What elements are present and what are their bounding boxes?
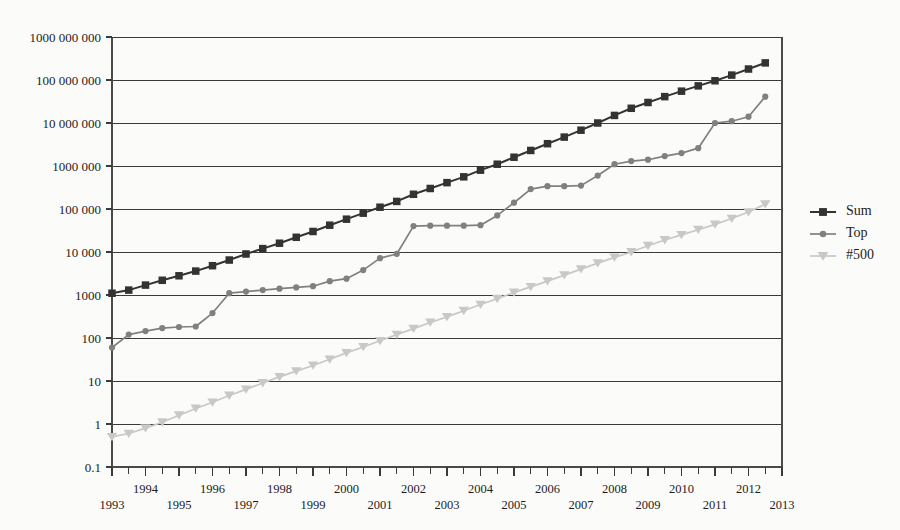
data-point-marker [159, 325, 165, 331]
data-point-marker [594, 119, 602, 127]
data-point-marker [762, 94, 768, 100]
x-tick-label: 2004 [468, 482, 494, 496]
data-point-marker [492, 295, 502, 303]
data-point-marker [745, 114, 751, 120]
data-point-marker [542, 277, 552, 285]
data-point-marker [327, 278, 333, 284]
data-point-marker [475, 301, 485, 309]
data-point-marker [510, 153, 518, 161]
x-tick-label: 2005 [502, 498, 527, 512]
data-point-marker [393, 198, 401, 206]
data-point-marker [258, 379, 268, 387]
data-point-marker [326, 221, 334, 229]
data-point-marker [224, 392, 234, 400]
legend-label: Sum [846, 203, 872, 218]
data-point-marker [628, 158, 634, 164]
legend-item-sum[interactable]: Sum [810, 203, 872, 218]
x-tick-label: 2006 [535, 482, 560, 496]
data-point-marker [108, 289, 116, 297]
data-point-marker [729, 118, 735, 124]
data-point-marker [461, 223, 467, 229]
data-point-marker [140, 424, 150, 432]
series-top [109, 94, 768, 351]
x-tick-label: 1993 [100, 498, 125, 512]
data-point-marker [527, 147, 535, 155]
data-point-marker [609, 253, 619, 261]
x-tick-label: 1996 [200, 482, 225, 496]
y-tick-label: 1000 000 000 [30, 30, 102, 45]
data-point-marker [274, 373, 284, 381]
legend-group: SumTop#500 [810, 203, 874, 262]
data-point-marker [611, 161, 617, 167]
data-point-marker [645, 157, 651, 163]
x-tick-label: 1999 [301, 498, 326, 512]
y-tick-label: 1000 000 [52, 159, 101, 174]
data-point-marker [241, 385, 251, 393]
data-point-marker [242, 250, 250, 258]
data-point-marker [494, 212, 500, 218]
x-tick-label: 2012 [736, 482, 761, 496]
data-point-marker [427, 223, 433, 229]
data-point-marker [743, 208, 753, 216]
data-point-marker [526, 283, 536, 291]
data-point-marker [343, 276, 349, 282]
data-point-marker [561, 133, 569, 141]
y-tick-labels-group: 1000 000 000100 000 00010 000 0001000 00… [30, 30, 102, 475]
series-group [107, 59, 771, 441]
data-point-marker [209, 310, 215, 316]
data-point-marker [593, 259, 603, 267]
y-tick-label: 1000 [75, 288, 101, 303]
y-tick-label: 100 000 [59, 202, 101, 217]
data-point-marker [443, 179, 451, 187]
data-point-marker [595, 172, 601, 178]
x-tick-label: 2001 [368, 498, 393, 512]
data-point-marker [325, 355, 335, 363]
x-tick-label: 2000 [334, 482, 359, 496]
data-point-marker [226, 256, 234, 264]
data-point-marker [109, 344, 115, 350]
data-point-marker [611, 112, 619, 120]
data-point-marker [544, 140, 552, 148]
y-tick-label: 1 [95, 417, 102, 432]
legend-item-num500[interactable]: #500 [810, 247, 874, 262]
data-point-marker [427, 185, 435, 193]
data-point-marker [643, 242, 653, 250]
data-point-marker [291, 367, 301, 375]
log-line-chart: 1000 000 000100 000 00010 000 0001000 00… [0, 0, 900, 530]
x-tick-label: 2002 [401, 482, 426, 496]
series-sum [108, 59, 769, 297]
data-point-marker [209, 262, 217, 270]
data-point-marker [159, 277, 167, 285]
data-point-marker [727, 215, 737, 223]
data-point-marker [360, 209, 368, 217]
data-point-marker [494, 160, 502, 168]
data-point-marker [408, 325, 418, 333]
data-point-marker [226, 290, 232, 296]
data-point-marker [820, 231, 827, 238]
data-point-marker [678, 150, 684, 156]
series-line [112, 97, 765, 348]
legend-item-top[interactable]: Top [810, 225, 868, 240]
data-point-marker [660, 236, 670, 244]
y-tick-label: 100 [82, 331, 102, 346]
data-point-marker [442, 313, 452, 321]
data-point-marker [191, 405, 201, 413]
series-num500 [107, 200, 771, 441]
data-point-marker [308, 362, 318, 370]
x-tick-label: 2007 [569, 498, 594, 512]
data-point-marker [174, 411, 184, 419]
data-point-marker [544, 183, 550, 189]
data-point-marker [511, 200, 517, 206]
x-tick-label: 2008 [602, 482, 627, 496]
data-point-marker [760, 200, 770, 208]
data-point-marker [662, 153, 668, 159]
x-tick-label: 2011 [703, 498, 728, 512]
data-point-marker [243, 288, 249, 294]
data-point-marker [425, 319, 435, 327]
data-point-marker [142, 328, 148, 334]
data-point-marker [528, 186, 534, 192]
data-point-marker [695, 82, 703, 90]
data-point-marker [142, 281, 150, 289]
data-point-marker [309, 228, 317, 236]
data-point-marker [260, 287, 266, 293]
